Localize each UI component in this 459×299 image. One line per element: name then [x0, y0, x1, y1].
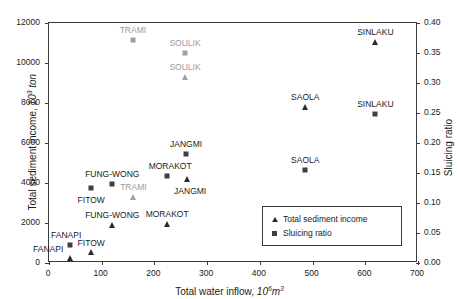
- y-axis-right-tick-label: 0.30: [424, 78, 441, 87]
- data-point-marker: [303, 168, 308, 173]
- y-axis-right-tick-label: 0.15: [424, 168, 441, 177]
- data-point-label: TRAMI: [120, 26, 146, 35]
- data-point-marker: [164, 221, 170, 227]
- x-axis-tick: [154, 261, 155, 265]
- y-axis-right-tick-label: 0.20: [424, 138, 441, 147]
- data-point-label: JANGMI: [174, 187, 206, 196]
- y-axis-right-tick-label: 0.25: [424, 108, 441, 117]
- data-point-marker: [373, 112, 378, 117]
- x-axis-tick: [102, 261, 103, 265]
- y-axis-left-title: Total sediment income, 103 ton: [26, 52, 38, 232]
- data-point-label: FITOW: [78, 196, 105, 205]
- y-axis-right-tick: [416, 83, 420, 84]
- data-point-label: FUNG-WONG: [85, 211, 139, 220]
- x-axis-tick-label: 300: [199, 269, 213, 278]
- data-point-label: FUNG-WONG: [85, 170, 139, 179]
- y-axis-left-title-text: Total sediment income,: [27, 108, 38, 210]
- x-axis-tick: [365, 261, 366, 265]
- y-axis-right-tick: [416, 143, 420, 144]
- y-axis-right-tick: [416, 173, 420, 174]
- legend-entry-sluicing: Sluicing ratio: [269, 226, 395, 240]
- data-point-marker: [165, 174, 170, 179]
- x-axis-tick-label: 700: [410, 269, 424, 278]
- x-axis-unit-tail-exp: 3: [280, 285, 284, 292]
- data-point-marker: [182, 74, 188, 80]
- data-point-label: SOULIK: [169, 63, 200, 72]
- y-axis-left-tick: [45, 223, 49, 224]
- x-axis-unit-tail: m: [272, 286, 280, 297]
- x-axis-tick-label: 400: [252, 269, 266, 278]
- data-point-marker: [184, 176, 190, 182]
- x-axis-tick-label: 200: [146, 269, 160, 278]
- y-axis-left-tick: [45, 183, 49, 184]
- data-point-label: SINLAKU: [357, 100, 393, 109]
- x-axis-tick: [260, 261, 261, 265]
- x-axis-tick: [418, 261, 419, 265]
- data-point-label: MORAKOT: [149, 162, 192, 171]
- x-axis-title: Total water inflow, 106m3: [0, 285, 459, 297]
- y-axis-left-unit-exp: 3: [26, 91, 33, 95]
- data-point-label: SAOLA: [291, 93, 319, 102]
- data-point-label: FITOW: [78, 239, 105, 248]
- y-axis-left-unit-tail: ton: [27, 74, 38, 88]
- x-axis-unit-base: 10: [257, 286, 268, 297]
- x-axis-title-text: Total water inflow,: [175, 286, 254, 297]
- y-axis-left-tick: [45, 143, 49, 144]
- y-axis-right-tick-label: 0.10: [424, 198, 441, 207]
- x-axis-tick: [207, 261, 208, 265]
- data-point-marker: [88, 249, 94, 255]
- data-point-marker: [372, 39, 378, 45]
- x-axis-tick-label: 600: [357, 269, 371, 278]
- data-point-marker: [183, 50, 188, 55]
- y-axis-right-tick: [416, 203, 420, 204]
- x-axis-tick-label: 100: [94, 269, 108, 278]
- data-point-marker: [67, 255, 73, 261]
- data-point-marker: [109, 222, 115, 228]
- y-axis-right-tick: [416, 23, 420, 24]
- data-point-marker: [110, 182, 115, 187]
- square-marker-icon: [269, 231, 280, 236]
- x-axis-tick-label: 500: [304, 269, 318, 278]
- y-axis-left-tick-label: 12000: [0, 18, 40, 27]
- y-axis-left-tick: [45, 63, 49, 64]
- data-point-label: FANAPI: [51, 231, 81, 240]
- x-axis-tick: [313, 261, 314, 265]
- data-point-marker: [89, 186, 94, 191]
- data-point-label: JANGMI: [170, 140, 202, 149]
- y-axis-right-tick: [416, 113, 420, 114]
- y-axis-right-tick: [416, 233, 420, 234]
- triangle-marker-icon: [269, 217, 280, 222]
- y-axis-left-tick-label: 0: [0, 258, 40, 267]
- y-axis-right-tick-label: 0.05: [424, 228, 441, 237]
- data-point-marker: [302, 104, 308, 110]
- y-axis-left-unit-base: 10: [27, 94, 38, 105]
- legend-label-sediment: Total sediment income: [283, 214, 368, 224]
- data-point-label: MORAKOT: [146, 210, 189, 219]
- x-axis-tick: [49, 261, 50, 265]
- legend-label-sluicing: Sluicing ratio: [283, 228, 332, 238]
- data-point-label: TRAMI: [120, 183, 146, 192]
- data-point-marker: [184, 152, 189, 157]
- chart-legend: Total sediment income Sluicing ratio: [262, 206, 402, 246]
- data-point-marker: [130, 38, 135, 43]
- y-axis-right-tick-label: 0.00: [424, 258, 441, 267]
- legend-entry-sediment: Total sediment income: [269, 212, 395, 226]
- data-point-marker: [68, 243, 73, 248]
- data-point-label: SOULIK: [169, 39, 200, 48]
- data-point-label: SAOLA: [291, 156, 319, 165]
- y-axis-right-title: Sluicing ratio: [443, 58, 454, 238]
- y-axis-left-tick: [45, 23, 49, 24]
- scatter-chart-figure: 0200040006000800010000120000.000.050.100…: [0, 0, 459, 299]
- y-axis-right-tick: [416, 53, 420, 54]
- x-axis-tick-label: 0: [46, 269, 51, 278]
- data-point-label: SINLAKU: [357, 28, 393, 37]
- y-axis-left-tick: [45, 103, 49, 104]
- y-axis-right-tick-label: 0.40: [424, 18, 441, 27]
- y-axis-right-tick-label: 0.35: [424, 48, 441, 57]
- data-point-marker: [130, 194, 136, 200]
- data-point-label: FANAPI: [33, 245, 63, 254]
